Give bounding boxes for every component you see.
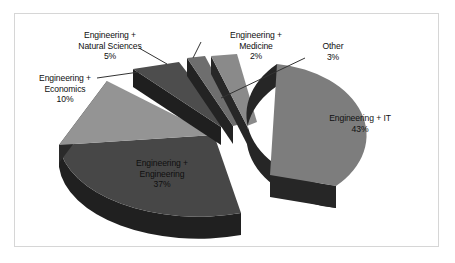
- label-eng-percent: 37%: [107, 179, 217, 190]
- label-econ-line1: Engineering +: [17, 73, 113, 84]
- label-econ-percent: 10%: [17, 94, 113, 105]
- label-ns-percent: 5%: [51, 51, 169, 62]
- label-eng-line2: Engineering: [107, 169, 217, 180]
- chart-frame: Engineering + Natural Sciences 5% Engine…: [14, 13, 439, 247]
- label-med-line1: Engineering +: [211, 30, 301, 41]
- label-it-line1: Engineering + IT: [305, 113, 415, 124]
- label-eng-line1: Engineering +: [107, 158, 217, 169]
- label-other-percent: 3%: [305, 52, 361, 63]
- label-it-percent: 43%: [305, 124, 415, 135]
- label-other: Other 3%: [305, 41, 361, 62]
- leader-line-medicine: [193, 42, 201, 58]
- label-ns-line1: Engineering +: [51, 30, 169, 41]
- slice-engineering-it[interactable]: [246, 64, 366, 208]
- label-engineering-economics: Engineering + Economics 10%: [17, 73, 113, 105]
- pie-chart-screenshot: Engineering + Natural Sciences 5% Engine…: [0, 0, 455, 263]
- label-med-percent: 2%: [211, 51, 301, 62]
- label-engineering-medicine: Engineering + Medicine 2%: [211, 30, 301, 62]
- label-econ-line2: Economics: [17, 84, 113, 95]
- label-ns-line2: Natural Sciences: [51, 41, 169, 52]
- label-engineering-engineering: Engineering + Engineering 37%: [107, 158, 217, 190]
- label-engineering-natural-sciences: Engineering + Natural Sciences 5%: [51, 30, 169, 62]
- label-other-line1: Other: [305, 41, 361, 52]
- label-engineering-it: Engineering + IT 43%: [305, 113, 415, 134]
- label-med-line2: Medicine: [211, 41, 301, 52]
